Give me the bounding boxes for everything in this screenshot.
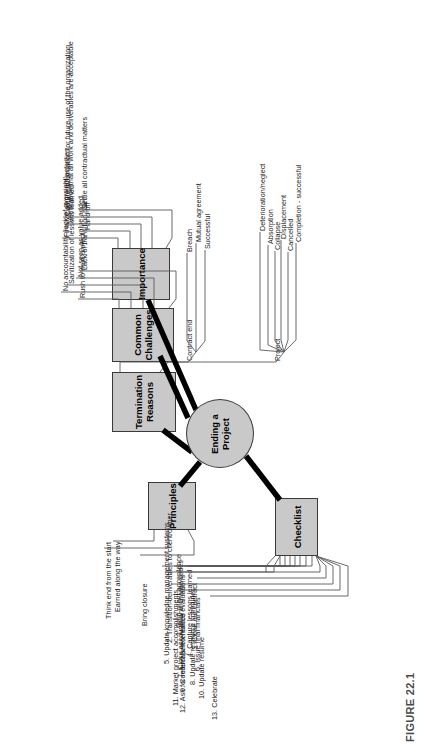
center-label-line1: Ending a: [209, 414, 220, 454]
center-label-line2: Project: [220, 418, 231, 450]
figure-canvas: Ending a Project Importance Finalize all…: [0, 0, 440, 756]
trunk-connector-lines: [0, 0, 440, 756]
center-node-ending-a-project[interactable]: Ending a Project: [186, 399, 254, 468]
center-node-label: Ending a Project: [209, 414, 231, 454]
